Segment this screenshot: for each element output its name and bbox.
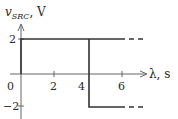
x-tick-label-0: 0 [7, 80, 14, 93]
x-tick-label-2: 2 [50, 80, 57, 93]
x-tick-label-6: 6 [118, 80, 125, 93]
y-tick-label-2: 2 [9, 33, 16, 46]
x-axis-label: λ, s [149, 67, 170, 81]
signal-trace-lower [89, 39, 125, 107]
step-waveform-chart: vSRC, V λ, s 0 2 4 6 2 −2 [0, 0, 178, 119]
y-axis-label: vSRC, V [5, 5, 46, 21]
y-tick-label-m2: −2 [3, 100, 19, 113]
x-tick-label-4: 4 [78, 80, 85, 93]
signal-trace [21, 39, 125, 74]
